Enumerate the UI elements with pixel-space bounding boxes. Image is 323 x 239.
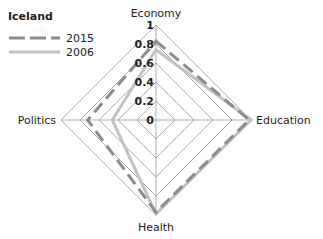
axis-label-economy: Economy — [131, 7, 182, 20]
legend-label-2015: 2015 — [66, 32, 94, 45]
radar-series — [88, 41, 251, 214]
legend-title: Iceland — [8, 10, 53, 23]
tick-label: 0 — [146, 114, 154, 127]
radar-chart: 00.20.40.60.81 Economy Education Health … — [0, 0, 323, 239]
legend: Iceland 2015 2006 — [8, 10, 94, 59]
tick-label: 0.2 — [135, 95, 155, 108]
tick-label: 1 — [146, 19, 154, 32]
axis-label-politics: Politics — [18, 114, 57, 127]
tick-label: 0.8 — [135, 38, 155, 51]
radial-tick-labels: 00.20.40.60.81 — [135, 19, 155, 127]
tick-label: 0.6 — [135, 57, 155, 70]
axis-label-education: Education — [256, 114, 311, 127]
legend-label-2006: 2006 — [66, 46, 94, 59]
axis-label-health: Health — [138, 221, 174, 234]
tick-label: 0.4 — [135, 76, 155, 89]
